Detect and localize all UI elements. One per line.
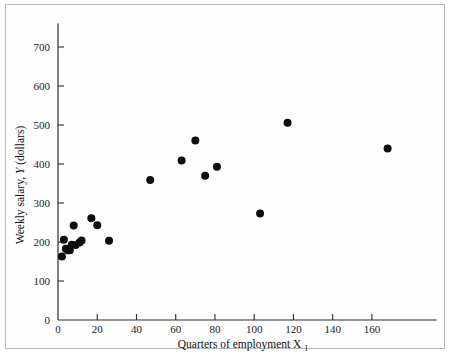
x-tick-label: 0	[55, 323, 61, 335]
data-point	[60, 236, 68, 244]
data-point	[178, 156, 186, 164]
x-axis-title: Quarters of employment X 1	[178, 338, 308, 353]
y-tick-label: 700	[34, 41, 51, 53]
chart-canvas: 0100200300400500600700 02040608010012014…	[0, 0, 452, 363]
x-tick-marks	[97, 314, 372, 320]
x-tick-labels: 020406080100120140160	[55, 323, 380, 335]
figure-page: 0100200300400500600700 02040608010012014…	[0, 0, 452, 363]
data-point	[70, 222, 78, 230]
y-tick-label: 400	[34, 158, 51, 170]
x-tick-label: 20	[92, 323, 104, 335]
data-point	[213, 163, 221, 171]
y-tick-labels: 0100200300400500600700	[34, 41, 51, 326]
scatter-plot: 0100200300400500600700 02040608010012014…	[0, 0, 452, 363]
x-tick-label: 80	[209, 323, 221, 335]
data-point	[93, 221, 101, 229]
x-tick-label: 100	[246, 323, 263, 335]
data-point	[256, 210, 264, 218]
y-tick-label: 300	[34, 197, 51, 209]
x-tick-label: 160	[364, 323, 381, 335]
data-point	[284, 119, 292, 127]
data-point	[191, 137, 199, 145]
y-tick-label: 500	[34, 119, 51, 131]
data-point	[105, 237, 113, 245]
data-point	[201, 172, 209, 180]
x-tick-label: 60	[170, 323, 182, 335]
data-point	[87, 214, 95, 222]
x-tick-label: 40	[131, 323, 143, 335]
data-point	[58, 252, 66, 260]
x-axis-title-text: Quarters of employment X 1	[178, 338, 308, 353]
x-tick-label: 140	[324, 323, 341, 335]
y-tick-label: 600	[34, 80, 51, 92]
data-point	[384, 144, 392, 152]
data-point	[146, 176, 154, 184]
y-tick-marks	[58, 47, 64, 320]
data-points	[58, 119, 392, 261]
y-tick-label: 0	[45, 314, 51, 326]
data-point	[78, 236, 86, 244]
y-tick-label: 200	[34, 236, 51, 248]
y-axis-title: Weekly salary, Y (dollars)	[14, 126, 27, 245]
x-tick-label: 120	[285, 323, 302, 335]
y-axis-title-text: Weekly salary, Y (dollars)	[14, 126, 27, 245]
y-tick-label: 100	[34, 275, 51, 287]
